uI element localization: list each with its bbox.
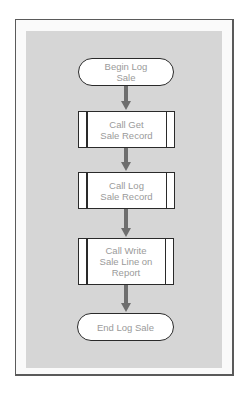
- end-label: End Log Sale: [87, 322, 164, 333]
- process-bar-right: [166, 173, 168, 208]
- process-bar-right: [166, 112, 168, 147]
- process-bar-left: [86, 173, 88, 208]
- arrow-head-icon: [121, 101, 131, 110]
- arrow-head-icon: [121, 303, 131, 312]
- process-bar-left: [86, 112, 88, 147]
- end-terminal: End Log Sale: [77, 313, 174, 341]
- arrow-head-icon: [121, 228, 131, 237]
- call-log-sale-record-box: Call Log Sale Record: [78, 172, 175, 209]
- process-bar-left: [86, 239, 88, 284]
- call-write-label: Call Write Sale Line on Report: [90, 245, 163, 278]
- process-bar-right: [165, 239, 167, 284]
- begin-terminal: Begin Log Sale: [78, 58, 174, 86]
- call-log-label: Call Log Sale Record: [90, 180, 162, 202]
- call-get-label: Call Get Sale Record: [90, 119, 162, 141]
- begin-label: Begin Log Sale: [95, 61, 158, 83]
- arrow-head-icon: [121, 162, 131, 171]
- call-write-sale-line-box: Call Write Sale Line on Report: [78, 238, 174, 285]
- call-get-sale-record-box: Call Get Sale Record: [78, 111, 175, 148]
